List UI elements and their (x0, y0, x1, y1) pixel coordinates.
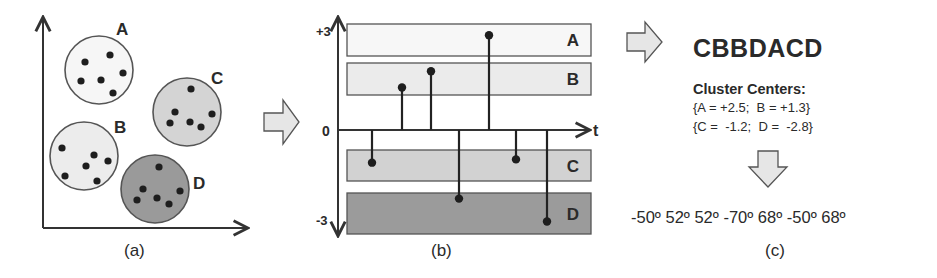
band-label: C (567, 157, 579, 176)
data-point (208, 110, 215, 117)
x-axis-label-t: t (593, 122, 599, 139)
cluster-b: B (50, 118, 126, 190)
stem-2 (398, 83, 406, 130)
cluster-label: D (193, 174, 205, 193)
band-b: B (347, 63, 591, 95)
band-c: C (347, 150, 591, 181)
data-point (58, 144, 65, 151)
data-point (109, 89, 116, 96)
data-point (139, 185, 146, 192)
y-tick-plus3: +3 (316, 24, 331, 39)
cluster-a: A (65, 20, 133, 104)
cluster-group: ACBD (50, 20, 223, 223)
cluster-label: B (114, 118, 126, 137)
data-point (61, 172, 68, 179)
band-label: D (567, 205, 579, 224)
arrow-right-icon (627, 22, 662, 62)
data-point (171, 108, 178, 115)
data-point (155, 163, 162, 170)
data-point (119, 69, 126, 76)
data-point (82, 162, 89, 169)
cluster-label: A (116, 20, 128, 39)
data-point (104, 157, 111, 164)
caption-c: (c) (765, 241, 785, 261)
data-point (77, 77, 84, 84)
stem-6 (512, 130, 520, 164)
data-point (165, 200, 172, 207)
band-label: A (567, 31, 579, 50)
data-point (81, 58, 88, 65)
band-label: B (567, 70, 579, 89)
cluster-circle (50, 122, 118, 190)
data-point (197, 123, 204, 130)
data-point (187, 85, 194, 92)
arrow-down-icon (749, 151, 787, 187)
angle-sequence: -50º 52º 52º -70º 68º -50º 68º (631, 208, 846, 227)
data-point (133, 196, 140, 203)
data-point (106, 51, 113, 58)
band-a: A (347, 24, 591, 56)
band-d: D (347, 193, 591, 234)
data-point (93, 177, 100, 184)
data-point (90, 151, 97, 158)
cluster-centers-ab: {A = +2.5; B = +1.3} (693, 100, 810, 115)
cluster-centers-title: Cluster Centers: (693, 81, 806, 97)
data-point (186, 118, 193, 125)
stem-1 (368, 130, 376, 167)
data-point (153, 194, 160, 201)
data-point (176, 187, 183, 194)
caption-b: (b) (431, 241, 452, 261)
data-point (166, 119, 173, 126)
panel-a-scatter: ACBD (43, 17, 248, 228)
caption-a: (a) (124, 241, 145, 261)
cluster-c: C (153, 69, 223, 146)
panel-b-stem-plot: ABCD t +3 0 -3 (316, 17, 599, 236)
symbol-sequence: CBBDACD (693, 34, 823, 63)
y-tick-minus3: -3 (316, 213, 328, 228)
cluster-centers-cd: {C = -1.2; D = -2.8} (693, 119, 813, 134)
cluster-d: D (121, 155, 205, 223)
cluster-label: C (211, 69, 223, 88)
y-tick-zero: 0 (322, 123, 330, 139)
arrow-right-icon (264, 100, 299, 144)
data-point (97, 76, 104, 83)
